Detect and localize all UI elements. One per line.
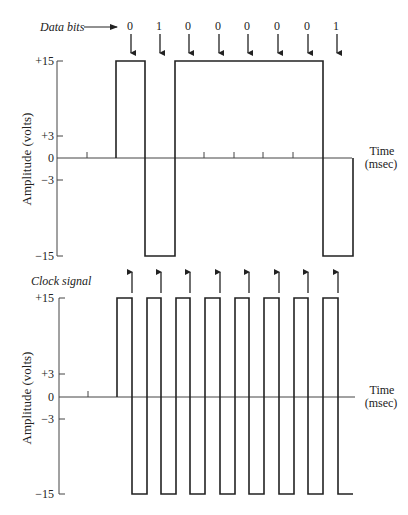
y-tick-label: −15: [20, 488, 54, 500]
x-axis-label: Time: [362, 145, 402, 157]
diagram: Data bits 0 1 0 0 0 0 0 1 +15 +3 0 −3 −1…: [0, 0, 408, 515]
data-bit-arrows: [131, 34, 337, 53]
waveform-graphics: [0, 0, 408, 515]
x-axis-unit: (msec): [358, 158, 404, 170]
y-tick-label: +15: [20, 292, 54, 304]
bit-label: 1: [333, 20, 339, 32]
clock-waveform: [117, 298, 353, 494]
bit-label: 0: [274, 20, 280, 32]
y-tick-label: +15: [20, 55, 54, 67]
bit-label: 0: [185, 20, 191, 32]
y-axis-label: Amplitude (volts): [19, 343, 35, 453]
bit-label: 0: [244, 20, 250, 32]
clock-signal-label: Clock signal: [31, 275, 91, 287]
bottom-y-axis: [59, 298, 65, 494]
top-x-axis: [57, 152, 352, 158]
bit-label: 1: [156, 20, 162, 32]
bit-label: 0: [215, 20, 221, 32]
bottom-x-axis: [59, 391, 355, 397]
y-axis-label: Amplitude (volts): [19, 104, 35, 214]
x-axis-label: Time: [362, 384, 402, 396]
bit-label: 0: [127, 20, 133, 32]
bit-label: 0: [304, 20, 310, 32]
y-tick-label: −15: [20, 250, 54, 262]
data-bits-label: Data bits: [40, 21, 84, 33]
clock-arrows: [132, 272, 338, 293]
x-axis-unit: (msec): [358, 397, 404, 409]
